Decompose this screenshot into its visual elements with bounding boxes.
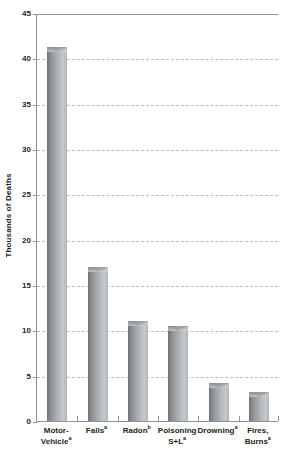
- x-axis-tick-labels: Motor-VehicleaFallsaRadonbPoisoningS+LaD…: [36, 426, 278, 466]
- x-axis-tick-label-line: Fallsa: [76, 426, 116, 437]
- x-axis-tick-label: PoisoningS+La: [157, 426, 197, 447]
- bar: [128, 321, 148, 421]
- gridline: [37, 14, 278, 15]
- x-axis-tick-label-line: Poisoning: [157, 426, 197, 437]
- y-axis-tick-label: 40: [22, 55, 31, 63]
- y-axis-tick-label: 25: [22, 191, 31, 199]
- y-axis-tick: [33, 286, 37, 287]
- y-axis-tick-label: 45: [22, 10, 31, 18]
- y-axis-tick: [33, 331, 37, 332]
- x-axis-tick-label: Motor-Vehiclea: [36, 426, 76, 447]
- y-axis-tick-label: 10: [22, 327, 31, 335]
- bar-top-face: [249, 392, 269, 397]
- y-axis-tick-label: 30: [22, 146, 31, 154]
- footnote-marker: a: [68, 435, 71, 441]
- gridline: [37, 59, 278, 60]
- gridline: [37, 286, 278, 287]
- bar: [88, 267, 108, 421]
- y-axis-tick: [33, 195, 37, 196]
- gridline: [37, 150, 278, 151]
- gridline: [37, 331, 278, 332]
- y-axis-tick: [33, 59, 37, 60]
- gridline: [37, 241, 278, 242]
- y-axis-tick-label: 35: [22, 101, 31, 109]
- footnote-marker: a: [104, 424, 107, 430]
- y-axis-tick: [33, 14, 37, 15]
- bar-top-face: [47, 47, 67, 52]
- y-axis-tick-label: 20: [22, 237, 31, 245]
- x-axis-separator: [158, 416, 159, 421]
- x-axis-separator: [198, 416, 199, 421]
- y-axis-tick-labels: 051015202530354045: [14, 0, 34, 430]
- x-axis-tick-label-line: Vehiclea: [36, 437, 76, 448]
- y-axis-tick-label: 5: [27, 373, 31, 381]
- gridline: [37, 105, 278, 106]
- y-axis-tick: [33, 105, 37, 106]
- y-axis-title-text: Thousands of Deaths: [4, 173, 13, 257]
- x-axis-tick-label-line: Drowninga: [197, 426, 237, 437]
- y-axis-tick: [33, 150, 37, 151]
- bar: [209, 383, 229, 421]
- x-axis-tick-label-line: Fires,: [238, 426, 278, 437]
- x-axis-tick-label-line: Burnsa: [238, 437, 278, 448]
- y-axis-tick-label: 0: [27, 418, 31, 426]
- plot-area: [36, 14, 278, 422]
- gridline: [37, 195, 278, 196]
- x-axis-tick-label: Radonb: [117, 426, 157, 437]
- bar-top-face: [168, 326, 188, 331]
- bar-top-face: [128, 321, 148, 326]
- y-axis-tick: [33, 377, 37, 378]
- bar-top-face: [88, 267, 108, 272]
- footnote-marker: a: [183, 435, 186, 441]
- y-axis-tick: [33, 422, 37, 423]
- footnote-marker: b: [148, 424, 151, 430]
- footnote-marker: a: [268, 435, 271, 441]
- x-axis-tick-label: Drowninga: [197, 426, 237, 437]
- x-axis-separator: [278, 416, 279, 421]
- x-axis-tick-label: Fires,Burnsa: [238, 426, 278, 447]
- x-axis-tick-label-line: Radonb: [117, 426, 157, 437]
- bar-top-face: [209, 383, 229, 388]
- bar: [168, 326, 188, 421]
- bar: [249, 392, 269, 421]
- bar-chart: Thousands of Deaths 051015202530354045 M…: [0, 0, 282, 466]
- y-axis-tick: [33, 241, 37, 242]
- bar: [47, 47, 67, 421]
- gridline: [37, 377, 278, 378]
- x-axis-tick-label-line: S+La: [157, 437, 197, 448]
- x-axis-separator: [118, 416, 119, 421]
- y-axis-tick-label: 15: [22, 282, 31, 290]
- x-axis-separator: [239, 416, 240, 421]
- x-axis-tick-label: Fallsa: [76, 426, 116, 437]
- x-axis-separator: [77, 416, 78, 421]
